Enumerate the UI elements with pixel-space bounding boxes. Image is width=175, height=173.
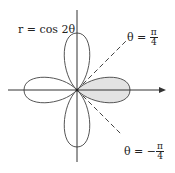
upper-fraction: π4 — [150, 28, 158, 47]
origin — [76, 89, 79, 92]
lower-line-label: θ = −π4 — [124, 142, 164, 161]
lower-lhs: θ = — [124, 145, 147, 158]
x-axis-arrow-icon — [159, 87, 166, 93]
equation-label: r = cos 2θ — [18, 23, 75, 36]
lower-sign: − — [147, 145, 156, 158]
lower-fraction: π4 — [156, 142, 164, 161]
upper-line-label: θ = π4 — [127, 28, 158, 47]
upper-lhs: θ = — [127, 31, 150, 44]
